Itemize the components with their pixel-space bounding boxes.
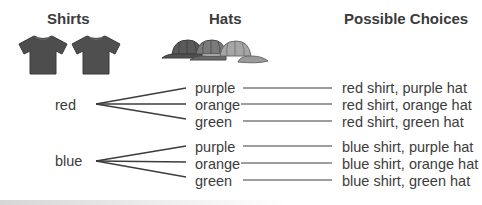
branch-line	[96, 161, 186, 162]
choice-text: blue shirt, orange hat	[342, 156, 478, 172]
branch-line	[96, 161, 186, 177]
choice-text: red shirt, purple hat	[342, 80, 467, 96]
choice-text: red shirt, orange hat	[342, 97, 472, 113]
choice-text: blue shirt, green hat	[342, 173, 470, 189]
branch-line	[96, 146, 186, 161]
hat-label: orange	[195, 156, 240, 172]
branch-line	[96, 88, 186, 104]
shirt-label-blue: blue	[55, 153, 82, 169]
hat-label: orange	[195, 97, 240, 113]
choice-text: red shirt, green hat	[342, 114, 464, 130]
hat-label: green	[195, 173, 232, 189]
choice-text: blue shirt, purple hat	[342, 139, 473, 155]
branch-line	[96, 104, 186, 119]
bottom-edge-shade	[0, 200, 480, 205]
hat-label: purple	[195, 139, 235, 155]
hat-label: green	[195, 114, 232, 130]
shirt-label-red: red	[55, 97, 76, 113]
hat-label: purple	[195, 80, 235, 96]
